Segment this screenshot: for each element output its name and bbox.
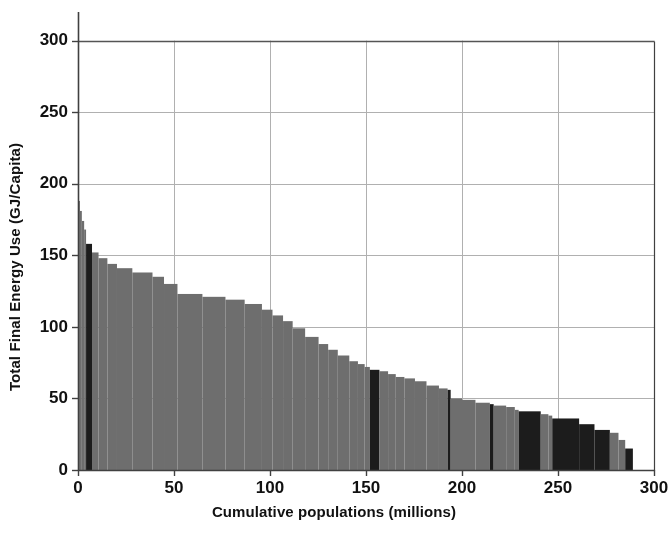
energy-use-bar-chart: [0, 0, 668, 534]
x-axis-title: Cumulative populations (millions): [0, 503, 668, 520]
chart-figure: Total Final Energy Use (GJ/Capita) Cumul…: [0, 0, 668, 534]
y-axis-title: Total Final Energy Use (GJ/Capita): [0, 0, 30, 534]
